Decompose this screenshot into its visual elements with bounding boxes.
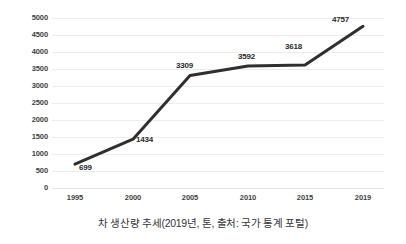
series-polyline — [75, 26, 363, 164]
data-label: 3618 — [285, 43, 302, 51]
x-axis-tick-label: 2019 — [333, 194, 393, 202]
data-label: 4757 — [332, 16, 349, 24]
x-axis-tick-label: 2010 — [218, 194, 278, 202]
y-axis-tick-label: 2500 — [8, 99, 48, 107]
plot-area — [52, 18, 384, 188]
x-axis-tick-label: 2005 — [160, 194, 220, 202]
axis-baseline — [52, 188, 384, 189]
data-label: 3592 — [238, 53, 255, 61]
data-label: 3309 — [176, 62, 193, 70]
y-axis-tick-label: 4500 — [8, 31, 48, 39]
x-axis-tick-label: 2015 — [275, 194, 335, 202]
x-axis-tick-label: 1995 — [45, 194, 105, 202]
y-axis-tick-label: 1000 — [8, 150, 48, 158]
chart-caption: 차 생산량 추세(2019년, 톤, 출처: 국가 통계 포털) — [0, 218, 406, 230]
y-axis-tick-label: 5000 — [8, 14, 48, 22]
chart-container: 5000 4500 4000 3500 3000 2500 2000 1500 … — [0, 0, 406, 244]
y-axis-tick-label: 3000 — [8, 82, 48, 90]
y-axis-tick-label: 1500 — [8, 133, 48, 141]
data-label: 699 — [79, 164, 92, 172]
y-axis-tick-label: 500 — [8, 167, 48, 175]
series-line-chart — [52, 18, 384, 188]
x-axis-tick-label: 2000 — [103, 194, 163, 202]
y-axis-tick-label: 2000 — [8, 116, 48, 124]
y-axis-tick-label: 3500 — [8, 65, 48, 73]
y-axis-tick-label: 4000 — [8, 48, 48, 56]
data-label: 1434 — [136, 136, 153, 144]
y-axis-tick-label: 0 — [8, 184, 48, 192]
